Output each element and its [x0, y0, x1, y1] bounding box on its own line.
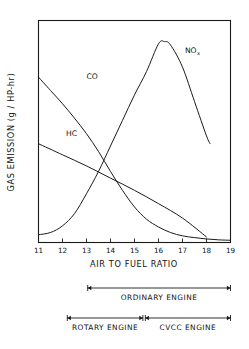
annotation-label-cvcc-engine: CVCC ENGINE — [160, 323, 217, 332]
series-label-hc: HC — [66, 129, 77, 138]
x-tick-label-17: 17 — [178, 246, 187, 255]
annotation-rotary-engine: ROTARY ENGINE — [67, 315, 143, 332]
x-tick-label-19: 19 — [226, 246, 236, 255]
annotation-label-rotary-engine: ROTARY ENGINE — [72, 323, 138, 332]
x-tick-label-15: 15 — [130, 246, 139, 255]
series-label-subscript: x — [197, 50, 200, 56]
chart-svg: GAS EMISSION (g / HP-hr) 111213141516171… — [0, 0, 249, 349]
x-tick-label-13: 13 — [82, 246, 91, 255]
x-axis-title: AIR TO FUEL RATIO — [90, 259, 178, 269]
x-tick-label-11: 11 — [34, 246, 43, 255]
series-label-co: CO — [87, 72, 98, 81]
annotation-label-ordinary-engine: ORDINARY ENGINE — [121, 293, 198, 302]
x-tick-label-16: 16 — [154, 246, 164, 255]
x-tick-label-18: 18 — [202, 246, 212, 255]
x-tick-label-12: 12 — [58, 246, 67, 255]
x-axis-tick-labels: 111213141516171819 — [34, 246, 236, 255]
x-tick-label-14: 14 — [106, 246, 116, 255]
emission-chart-figure: GAS EMISSION (g / HP-hr) 111213141516171… — [0, 0, 249, 349]
y-axis-title: GAS EMISSION (g / HP-hr) — [6, 73, 16, 192]
